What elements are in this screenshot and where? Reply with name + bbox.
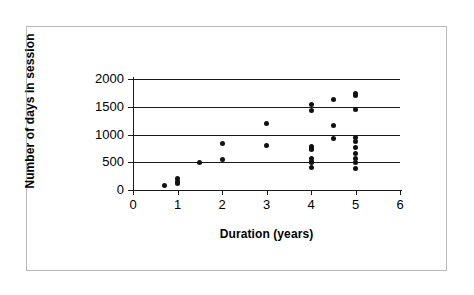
y-tick-500 [128,162,133,163]
y-axis-title: Number of days in session [23,26,37,196]
y-tick-1500 [128,107,133,108]
x-tick-label-6: 6 [389,198,411,212]
data-point [353,139,358,144]
x-tick-label-3: 3 [256,198,278,212]
y-tick-label-1000: 1000 [84,128,124,141]
data-point [309,165,314,170]
x-axis-title: Duration (years) [133,227,400,241]
data-point [197,160,202,165]
y-tick-label-500: 500 [84,155,124,168]
x-tick-1 [178,190,179,195]
gridline-2000 [133,79,400,80]
x-tick-2 [222,190,223,195]
gridline-1500 [133,107,400,108]
x-tick-5 [356,190,357,195]
data-point [309,108,314,113]
gridline-1000 [133,135,400,136]
scatter-plot-figure: 0500100015002000 0123456 Duration (years… [0,0,474,295]
data-point [353,107,358,112]
data-point [220,157,225,162]
x-tick-label-1: 1 [167,198,189,212]
gridline-500 [133,162,400,163]
y-tick-label-0: 0 [84,183,124,196]
y-tick-label-2000: 2000 [84,72,124,85]
x-tick-6 [400,190,401,195]
data-point [309,102,314,107]
x-tick-label-4: 4 [300,198,322,212]
x-tick-label-5: 5 [345,198,367,212]
data-point [331,136,336,141]
x-tick-label-0: 0 [122,198,144,212]
y-tick-1000 [128,135,133,136]
x-tick-4 [311,190,312,195]
x-tick-3 [267,190,268,195]
x-tick-label-2: 2 [211,198,233,212]
x-tick-0 [133,190,134,195]
data-point [331,123,336,128]
y-tick-label-1500: 1500 [84,100,124,113]
data-point [309,147,314,152]
y-axis-line [133,77,134,192]
data-point [331,97,336,102]
y-tick-2000 [128,79,133,80]
